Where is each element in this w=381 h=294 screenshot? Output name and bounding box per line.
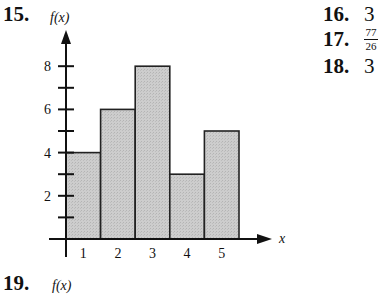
x-tick-label: 5 [218, 246, 225, 261]
y-tick-label: 2 [44, 189, 51, 204]
y-tick-label: 4 [44, 146, 51, 161]
histogram-bar-2 [101, 109, 136, 239]
x-tick-label: 4 [184, 246, 191, 261]
x-axis-arrow-icon [257, 234, 272, 244]
y-tick-label: 8 [44, 59, 51, 74]
histogram-bars [66, 66, 239, 239]
x-tick-label: 3 [149, 246, 156, 261]
y-axis-arrow-icon [61, 30, 71, 44]
problem-19-y-axis-label: f(x) [52, 279, 71, 293]
x-tick-label: 2 [114, 246, 121, 261]
histogram-bar-3 [135, 66, 170, 239]
x-axis-label: x [278, 231, 286, 246]
x-axis-tick-labels: 12345 [80, 246, 225, 261]
histogram-bar-5 [204, 131, 239, 239]
problem-19-number: 19. [3, 273, 29, 294]
histogram-chart: 2468 12345 x [0, 0, 381, 294]
x-tick-label: 1 [80, 246, 87, 261]
histogram-bar-4 [170, 174, 205, 239]
y-tick-label: 6 [44, 102, 51, 117]
